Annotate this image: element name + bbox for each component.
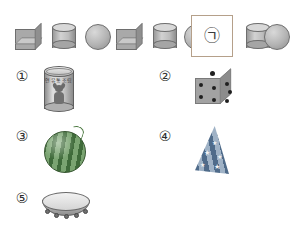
cylinder-shape [153, 23, 177, 51]
can-shape: 연유통조림 [44, 66, 74, 112]
choice-option-5[interactable]: ⑤ [12, 184, 132, 234]
choice-option-1[interactable]: ① 연유통조림 [12, 62, 132, 122]
can-rim [46, 68, 72, 75]
dice-pip [225, 82, 229, 86]
dice-shape [191, 67, 235, 113]
dice-pip [199, 95, 203, 99]
choice-number-5: ⑤ [12, 188, 32, 208]
sequence-item-1 [14, 14, 44, 60]
shape-pattern-sequence [0, 14, 293, 60]
mascot-head [55, 85, 63, 92]
sequence-item-3 [83, 14, 113, 60]
watermelon-illustration [40, 122, 98, 180]
sphere-shape [264, 24, 290, 50]
sequence-item-9 [262, 14, 292, 60]
cylinder-shape [52, 23, 76, 51]
party-hat-illustration: ★ ★ ★ ★ ★ [183, 122, 241, 180]
cube-shape [116, 23, 144, 51]
choice-option-3[interactable]: ③ [12, 122, 132, 182]
tambourine-head [42, 192, 90, 211]
dice-pip [225, 99, 229, 103]
cone-shape: ★ ★ ★ ★ ★ [195, 126, 229, 176]
cylinder-bottom [52, 40, 76, 49]
can-label-text: 연유통조림 [45, 77, 73, 84]
sequence-item-5 [150, 14, 180, 60]
dice-illustration [183, 62, 241, 120]
sphere-shape [85, 24, 111, 50]
can-illustration: 연유통조림 [40, 62, 98, 120]
dice-pip [228, 90, 232, 94]
sequence-item-2 [49, 14, 79, 60]
choice-number-4: ④ [155, 126, 175, 146]
watermelon-shape [44, 126, 88, 174]
dice-pip [210, 71, 215, 76]
answer-blank-box[interactable]: ㉠ [191, 15, 233, 57]
tambourine-jingle [74, 213, 79, 218]
cylinder-bottom [153, 40, 177, 49]
cylinder-top [153, 23, 177, 32]
star-icon: ★ [204, 150, 210, 157]
cube-right-face [136, 23, 142, 50]
tambourine-shape [42, 192, 92, 224]
cube-right-face [35, 23, 41, 50]
dice-pip [212, 98, 216, 102]
dice-pip [199, 83, 203, 87]
dice-pip [212, 86, 216, 90]
star-icon: ★ [200, 162, 205, 168]
tambourine-jingle [45, 209, 50, 214]
star-icon: ★ [214, 164, 220, 171]
can-mascot [53, 85, 65, 105]
choice-option-4[interactable]: ④ ★ ★ ★ ★ ★ [155, 122, 275, 182]
cube-shape [15, 23, 43, 51]
worksheet-page: ㉠ ① 연유통조림 [0, 0, 293, 234]
tambourine-jingle [83, 209, 88, 214]
choice-number-1: ① [12, 66, 32, 86]
choice-option-2[interactable]: ② [155, 62, 275, 122]
mascot-body [54, 92, 64, 104]
tambourine-jingle [54, 213, 59, 218]
tambourine-jingle [64, 214, 69, 219]
choice-number-2: ② [155, 66, 175, 86]
star-icon: ★ [217, 154, 222, 160]
tambourine-illustration [40, 184, 98, 234]
circled-giyeok-icon: ㉠ [204, 28, 220, 44]
cylinder-top [52, 23, 76, 32]
star-icon: ★ [212, 140, 217, 146]
choice-number-3: ③ [12, 126, 32, 146]
answer-choices: ① 연유통조림 ② [0, 62, 293, 234]
dice-front-face [195, 78, 221, 104]
sequence-item-4 [115, 14, 145, 60]
